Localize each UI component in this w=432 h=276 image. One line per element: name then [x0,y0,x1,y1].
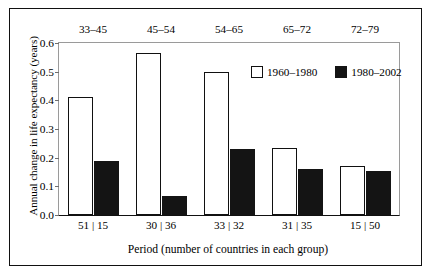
bar-series1 [136,53,161,215]
y-tick-label: 0.6 [40,37,54,49]
y-tick-label: 0.5 [40,66,54,78]
bar-series1 [204,72,229,215]
y-tick-label: 0.1 [40,180,54,192]
x-tick-label: 51 | 15 [78,219,108,231]
bar-series2 [94,161,119,215]
x-tick-label: 15 | 50 [350,219,380,231]
y-tick-mark [55,100,59,101]
legend-swatch-icon [335,66,347,78]
x-tick-label: 30 | 36 [146,219,176,231]
y-tick-label: 0.3 [40,123,54,135]
y-tick-mark [55,43,59,44]
top-range-label: 72–79 [351,23,379,35]
x-tick-label: 31 | 35 [282,219,312,231]
y-tick-label: 0.2 [40,152,54,164]
bar-series1 [68,97,93,215]
plot-area: 0.00.10.20.30.40.50.6 33–4545–5454–6565–… [58,42,400,216]
y-tick-label: 0.4 [40,94,54,106]
y-tick-mark [55,72,59,73]
bar-series1 [340,166,365,215]
top-range-label: 33–45 [79,23,107,35]
top-range-label: 45–54 [147,23,175,35]
legend-label: 1960–1980 [267,66,317,78]
legend-entry: 1960–1980 [251,66,317,78]
y-tick-mark [55,129,59,130]
legend-label: 1980–2002 [351,66,401,78]
legend-swatch-icon [251,66,263,78]
bar-series2 [162,196,187,215]
chart-legend: 1960–19801980–2002 [251,66,402,78]
legend-entry: 1980–2002 [335,66,401,78]
bar-series2 [366,171,391,215]
x-tick-label: 33 | 32 [214,219,244,231]
y-tick-label: 0.0 [40,209,54,221]
y-axis-title: Annual change in life expectancy (years) [27,31,39,221]
y-tick-mark [55,215,59,216]
bar-series2 [298,169,323,215]
top-range-label: 65–72 [283,23,311,35]
bar-series1 [272,148,297,215]
y-tick-mark [55,158,59,159]
figure-container: Annual change in life expectancy (years)… [0,0,432,276]
bar-series2 [230,149,255,215]
y-tick-mark [55,186,59,187]
x-axis-title: Period (number of countries in each grou… [58,243,398,256]
top-range-label: 54–65 [215,23,243,35]
